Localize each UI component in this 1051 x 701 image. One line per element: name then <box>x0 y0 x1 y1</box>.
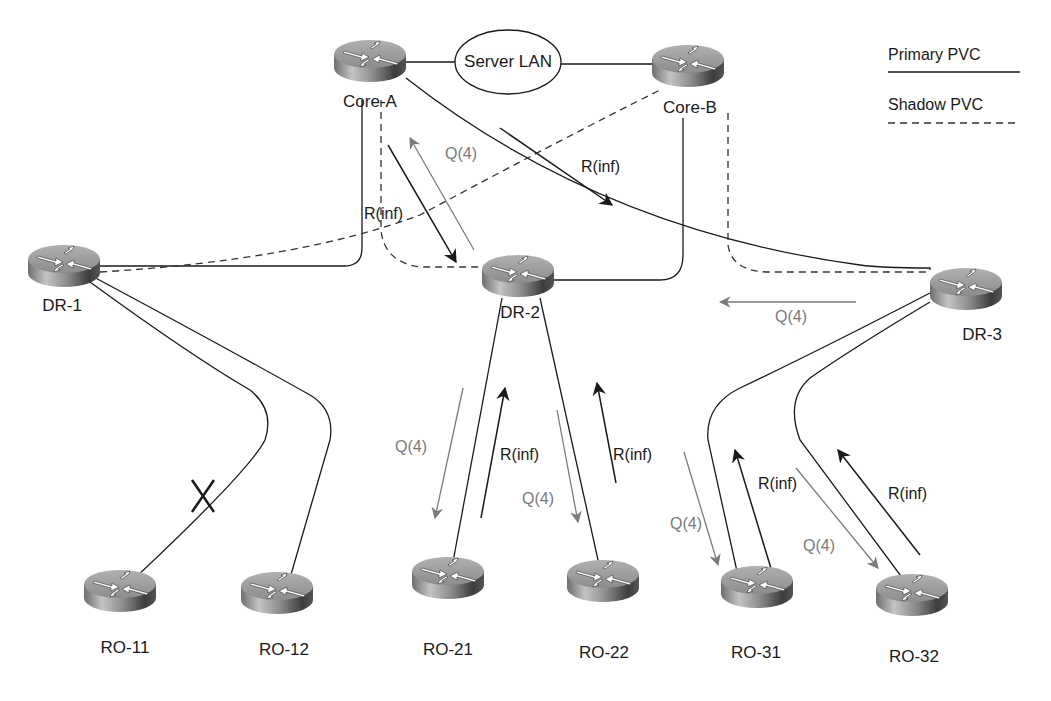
annotation-query-dr-3: Q(4) <box>775 308 807 326</box>
primary-pvcs <box>90 78 930 595</box>
pvc-dr-2-ro-21 <box>450 298 502 578</box>
server-lan-label: Server LAN <box>464 52 552 72</box>
reply-arrow-ro-31 <box>735 450 773 575</box>
annotation-reply-ro-31: R(inf) <box>758 475 797 493</box>
routers <box>28 40 1002 616</box>
legend-shadow-label: Shadow PVC <box>888 96 983 114</box>
annotation-reply-ro-22: R(inf) <box>613 446 652 464</box>
router-icon-core-a[interactable] <box>334 40 406 82</box>
pvc-core-b-dr-2 <box>554 118 683 280</box>
annotation-query-ro-32: Q(4) <box>803 537 835 555</box>
pvc-dr-2-ro-22 <box>540 298 602 578</box>
query-arrow-ro-22 <box>557 410 578 522</box>
router-label-ro-22: RO-22 <box>579 643 629 663</box>
router-label-ro-11: RO-11 <box>101 638 150 658</box>
shadow-core-a-dr-2 <box>381 100 482 267</box>
router-icon-ro-32[interactable] <box>876 574 948 616</box>
router-label-dr-3: DR-3 <box>962 325 1002 345</box>
annotation-reply-core-a: R(inf) <box>364 205 403 223</box>
router-icon-dr-1[interactable] <box>28 245 100 287</box>
router-label-dr-2: DR-2 <box>500 303 540 323</box>
annotation-reply-ro-32: R(inf) <box>888 485 927 503</box>
pvc-dr-1-ro-12 <box>90 275 331 578</box>
router-icon-ro-11[interactable] <box>84 570 156 612</box>
annotation-query-core-a: Q(4) <box>445 145 477 163</box>
annotation-reply-ro-21: R(inf) <box>500 446 539 464</box>
pvc-core-a-dr-1 <box>100 100 362 266</box>
legend-primary-label: Primary PVC <box>888 46 980 64</box>
router-label-dr-1: DR-1 <box>42 296 82 316</box>
shadow-pvcs <box>100 90 930 272</box>
router-icon-dr-3[interactable] <box>930 268 1002 310</box>
router-icon-ro-21[interactable] <box>412 557 484 599</box>
reply-arrows <box>388 128 920 575</box>
shadow-core-b-dr-3 <box>728 113 930 272</box>
router-icon-dr-2[interactable] <box>482 255 554 297</box>
router-icon-core-b[interactable] <box>652 45 724 87</box>
pvc-dr-1-ro-11 <box>90 282 268 578</box>
router-label-ro-12: RO-12 <box>259 640 309 660</box>
annotation-query-ro-21: Q(4) <box>395 438 427 456</box>
annotation-query-ro-31: Q(4) <box>670 515 702 533</box>
reply-arrow-ro-22 <box>597 383 616 483</box>
router-icon-ro-31[interactable] <box>721 566 793 608</box>
router-label-core-a: Core-A <box>343 92 397 112</box>
router-label-ro-31: RO-31 <box>731 643 781 663</box>
network-diagram: Primary PVC Shadow PVC Server LAN Core-A… <box>0 0 1051 701</box>
query-arrow-ro-21 <box>435 388 463 518</box>
router-icon-ro-12[interactable] <box>241 572 313 614</box>
annotation-query-ro-22: Q(4) <box>522 490 554 508</box>
router-label-core-b: Core-B <box>663 98 717 118</box>
query-arrow-ro-31 <box>684 452 718 565</box>
router-label-ro-32: RO-32 <box>889 647 939 667</box>
link-failure-x-icon <box>192 480 214 512</box>
query-arrows <box>410 138 878 568</box>
router-label-ro-21: RO-21 <box>423 640 473 660</box>
annotation-reply-core-a-dr-3: R(inf) <box>581 158 620 176</box>
router-icon-ro-22[interactable] <box>567 560 639 602</box>
